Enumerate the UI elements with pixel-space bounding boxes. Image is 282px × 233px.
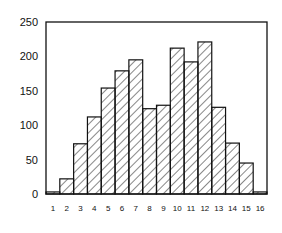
bar-13 xyxy=(212,107,226,194)
bars xyxy=(46,42,267,194)
y-axis-tick-labels: 050100150200250 xyxy=(20,16,38,200)
bar-2 xyxy=(60,179,74,194)
x-tick-label: 2 xyxy=(64,204,69,213)
x-tick-label: 5 xyxy=(106,204,111,213)
x-tick-label: 12 xyxy=(200,204,209,213)
x-tick-label: 7 xyxy=(134,204,139,213)
x-tick-label: 14 xyxy=(228,204,237,213)
y-tick-label: 200 xyxy=(20,50,38,62)
histogram-chart: 050100150200250 12345678910111213141516 xyxy=(0,0,282,233)
bar-9 xyxy=(157,105,171,194)
x-tick-label: 13 xyxy=(214,204,223,213)
y-tick-label: 250 xyxy=(20,16,38,28)
x-tick-label: 10 xyxy=(173,204,182,213)
bar-5 xyxy=(101,88,115,194)
y-tick-label: 150 xyxy=(20,85,38,97)
y-tick-label: 50 xyxy=(26,154,38,166)
bar-15 xyxy=(239,163,253,194)
bar-7 xyxy=(129,60,143,194)
x-tick-label: 11 xyxy=(187,204,196,213)
x-tick-label: 6 xyxy=(120,204,125,213)
bar-8 xyxy=(143,109,157,194)
x-tick-label: 3 xyxy=(78,204,83,213)
x-tick-label: 1 xyxy=(51,204,56,213)
x-tick-label: 9 xyxy=(161,204,166,213)
y-tick-label: 100 xyxy=(20,119,38,131)
bar-3 xyxy=(74,144,88,194)
x-axis-tick-labels: 12345678910111213141516 xyxy=(51,204,265,213)
y-tick-label: 0 xyxy=(32,188,38,200)
x-tick-label: 16 xyxy=(256,204,265,213)
x-tick-label: 4 xyxy=(92,204,97,213)
bar-10 xyxy=(170,48,184,194)
bar-14 xyxy=(226,143,240,194)
bar-12 xyxy=(198,42,212,194)
bar-11 xyxy=(184,62,198,194)
x-tick-label: 8 xyxy=(147,204,152,213)
x-tick-label: 15 xyxy=(242,204,251,213)
bar-4 xyxy=(87,117,101,194)
bar-6 xyxy=(115,71,129,194)
